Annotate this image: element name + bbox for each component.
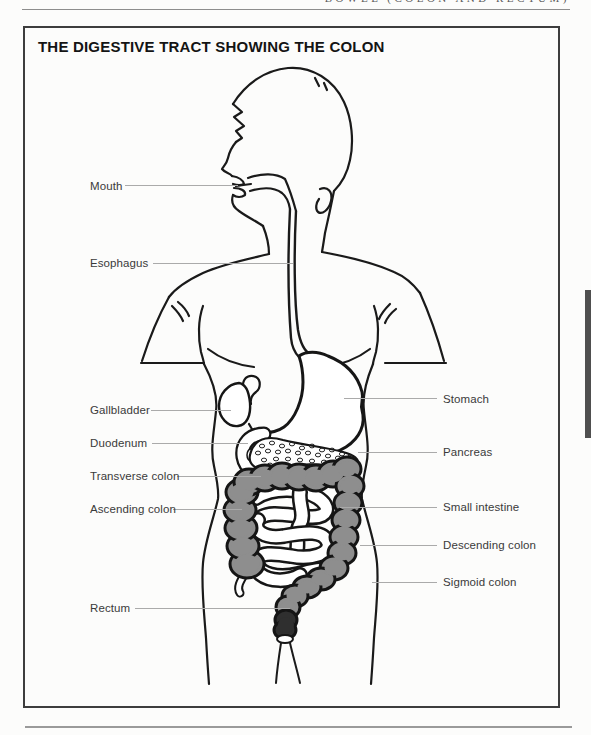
leader-line-stomach: [344, 398, 437, 399]
label-mouth: Mouth: [90, 178, 122, 194]
leader-line-transverse-colon: [177, 476, 261, 477]
label-descending-colon: Descending colon: [443, 537, 536, 553]
neck-back: [322, 191, 334, 252]
leader-line-sigmoid-colon: [372, 582, 437, 583]
elbow-right: [379, 304, 396, 323]
book-page: BOWEL (COLON AND RECTUM) THE DIGESTIVE T…: [0, 0, 591, 735]
leader-line-small-intestine: [340, 507, 437, 508]
label-transverse-colon: Transverse colon: [90, 468, 179, 484]
label-ascending-colon: Ascending colon: [90, 501, 176, 517]
armpit-right: [373, 306, 378, 364]
label-small-intestine: Small intestine: [443, 499, 519, 515]
lower-lip: [233, 188, 245, 197]
leader-line-esophagus: [153, 263, 293, 264]
pec-left: [208, 349, 254, 367]
torso-right: [362, 364, 378, 684]
label-sigmoid-colon: Sigmoid colon: [443, 574, 517, 590]
label-duodenum: Duodenum: [90, 435, 147, 451]
label-pancreas: Pancreas: [443, 444, 492, 460]
label-rectum: Rectum: [90, 600, 130, 616]
head-outline: [233, 68, 352, 191]
leader-line-descending-colon: [360, 545, 437, 546]
upper-lip: [232, 176, 244, 185]
shoulder-left: [169, 254, 269, 297]
label-stomach: Stomach: [443, 391, 489, 407]
elbow-left: [172, 302, 189, 321]
torso-left: [202, 364, 218, 684]
leader-line-gallbladder: [151, 410, 231, 411]
nose: [222, 142, 236, 176]
shoulder-right: [322, 252, 420, 293]
leader-line-mouth: [125, 185, 238, 186]
esophagus-tube: [289, 209, 311, 357]
chin-jaw: [232, 195, 263, 226]
label-esophagus: Esophagus: [90, 255, 148, 271]
arm-left-outer: [142, 297, 169, 361]
neck-front: [263, 226, 269, 254]
leader-line-ascending-colon: [173, 509, 242, 510]
label-gallbladder: Gallbladder: [90, 402, 150, 418]
leader-line-duodenum: [152, 443, 248, 444]
leader-line-pancreas: [358, 452, 437, 453]
armpit-left: [199, 306, 204, 364]
arm-right-outer: [420, 293, 444, 361]
gallbladder-shape: [219, 376, 260, 437]
tongue: [250, 188, 290, 209]
rectum-shape: [274, 610, 300, 683]
hairline: [233, 104, 244, 142]
digestive-tract-illustration: [0, 0, 591, 735]
leader-line-rectum: [135, 608, 290, 609]
